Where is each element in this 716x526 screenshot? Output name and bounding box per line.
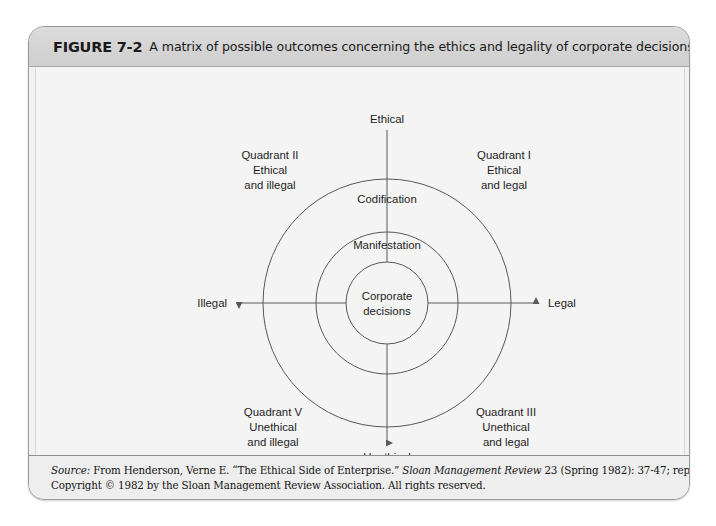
source-line-2: Copyright © 1982 by the Sloan Management… xyxy=(51,478,667,493)
quadrant-1-line2: and legal xyxy=(481,179,527,191)
quadrant-label-quadrant-5: Quadrant V Unethical and illegal xyxy=(244,406,303,448)
source-line-1: Source: From Henderson, Verne E. “The Et… xyxy=(51,463,667,478)
quadrant-1-title: Quadrant I xyxy=(477,149,531,161)
quadrant-5-line1: Unethical xyxy=(249,421,297,433)
quadrant-5-title: Quadrant V xyxy=(244,406,303,418)
quadrant-label-quadrant-1: Quadrant I Ethical and legal xyxy=(477,149,531,191)
quadrant-label-quadrant-3: Quadrant III Unethical and legal xyxy=(476,406,536,448)
ring-label-manifestation: Manifestation xyxy=(353,239,421,251)
axis-label-illegal: Illegal xyxy=(197,297,227,309)
source-label: Source: xyxy=(51,464,90,476)
source-text-b: 23 (Spring 1982): 37-47; reprinted by pe… xyxy=(541,464,690,476)
quadrant-2-line2: and illegal xyxy=(244,179,295,191)
quadrant-3-title: Quadrant III xyxy=(476,406,536,418)
ring-label-decisions: decisions xyxy=(363,305,411,317)
axis-label-ethical: Ethical xyxy=(370,113,404,125)
ring-label-codification: Codification xyxy=(357,193,417,205)
figure-number: FIGURE 7-2 xyxy=(53,39,142,55)
quadrant-5-line2: and illegal xyxy=(247,436,298,448)
ring-label-corporate: Corporate xyxy=(362,290,413,302)
quadrant-2-title: Quadrant II xyxy=(242,149,299,161)
source-block: Source: From Henderson, Verne E. “The Et… xyxy=(29,455,689,499)
axis-label-legal: Legal xyxy=(548,297,576,309)
quadrant-1-line1: Ethical xyxy=(487,164,521,176)
ethics-legality-matrix-diagram: Codification Manifestation Corporate dec… xyxy=(36,68,686,457)
source-text-a: From Henderson, Verne E. “The Ethical Si… xyxy=(90,464,402,476)
figure-card: FIGURE 7-2 A matrix of possible outcomes… xyxy=(28,26,690,500)
figure-caption: A matrix of possible outcomes concerning… xyxy=(149,39,690,54)
quadrant-3-line1: Unethical xyxy=(482,421,530,433)
quadrant-label-quadrant-2: Quadrant II Ethical and illegal xyxy=(242,149,299,191)
quadrant-3-line2: and legal xyxy=(483,436,529,448)
source-journal-title: Sloan Management Review xyxy=(402,464,541,476)
ring-inner-corporate-decisions xyxy=(346,262,428,344)
figure-header: FIGURE 7-2 A matrix of possible outcomes… xyxy=(29,27,689,67)
quadrant-2-line1: Ethical xyxy=(253,164,287,176)
diagram-plate: Codification Manifestation Corporate dec… xyxy=(35,68,685,457)
